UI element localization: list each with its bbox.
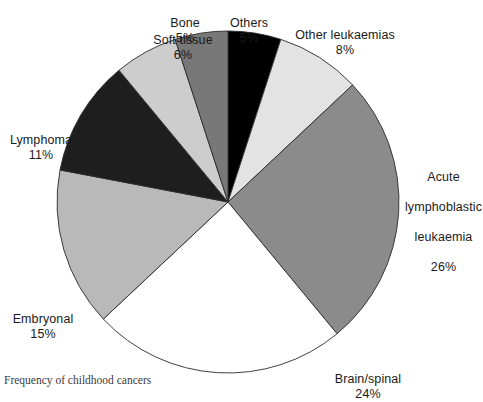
slice-label-embryonal-percent: 15% bbox=[2, 327, 84, 342]
slice-label-other-leukaemias-percent: 8% bbox=[283, 43, 407, 58]
slice-label-brain-spinal: Brain/spinal 24% bbox=[320, 357, 416, 402]
slice-label-embryonal-name: Embryonal bbox=[13, 312, 74, 326]
slice-label-others: Others 5% bbox=[214, 1, 284, 61]
slice-label-other-leukaemias: Other leukaemias 8% bbox=[283, 13, 407, 73]
slice-label-other-leukaemias-name: Other leukaemias bbox=[295, 28, 395, 42]
slice-label-all-line2: lymphoblastic bbox=[404, 200, 483, 215]
slice-label-bone-percent: 5% bbox=[150, 31, 220, 46]
figure-caption: Frequency of childhood cancers bbox=[4, 374, 151, 386]
slice-label-all-percent: 26% bbox=[404, 260, 483, 275]
slice-label-all-line1: Acute bbox=[404, 170, 483, 185]
pie-slices-group bbox=[57, 31, 399, 373]
slice-label-embryonal: Embryonal 15% bbox=[2, 297, 84, 357]
slice-label-acute-lymphoblastic-leukaemia: Acute lymphoblastic leukaemia 26% bbox=[404, 155, 483, 290]
slice-label-bone-name: Bone bbox=[170, 16, 200, 30]
slice-label-others-percent: 5% bbox=[214, 31, 284, 46]
slice-label-lymphoma-name: Lymphoma bbox=[10, 133, 72, 147]
slice-label-others-name: Others bbox=[230, 16, 268, 30]
slice-label-bone: Bone 5% bbox=[150, 1, 220, 61]
slice-label-all-line3: leukaemia bbox=[404, 230, 483, 245]
slice-label-lymphoma-percent: 11% bbox=[1, 148, 81, 163]
slice-label-lymphoma: Lymphoma 11% bbox=[1, 118, 81, 178]
slice-label-brain-spinal-name: Brain/spinal bbox=[335, 372, 402, 386]
slice-label-brain-spinal-percent: 24% bbox=[320, 387, 416, 402]
